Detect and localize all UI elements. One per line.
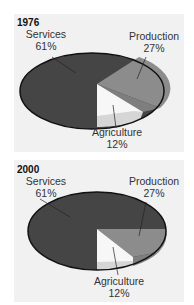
pie-2000 <box>28 192 167 275</box>
label-text: Agriculture <box>86 126 148 138</box>
label-text: Production <box>126 30 182 42</box>
label-pct: 27% <box>126 42 182 54</box>
label-production-1976: Production 27% <box>126 30 182 54</box>
label-agriculture-1976: Agriculture 12% <box>86 126 148 150</box>
label-agriculture-2000: Agriculture 12% <box>88 275 150 299</box>
label-services-2000: Services 61% <box>22 175 70 199</box>
label-pct: 61% <box>22 187 70 199</box>
label-text: Services <box>22 175 70 187</box>
label-services-1976: Services 61% <box>22 28 70 52</box>
label-text: Production <box>126 175 182 187</box>
pie-1976 <box>20 53 170 129</box>
label-pct: 12% <box>88 287 150 299</box>
chart-title-2000: 2000 <box>17 164 39 175</box>
label-text: Agriculture <box>88 275 150 287</box>
label-pct: 61% <box>22 40 70 52</box>
label-text: Services <box>22 28 70 40</box>
label-production-2000: Production 27% <box>126 175 182 199</box>
chart-title-1976: 1976 <box>17 17 39 28</box>
label-pct: 12% <box>86 138 148 150</box>
label-pct: 27% <box>126 187 182 199</box>
